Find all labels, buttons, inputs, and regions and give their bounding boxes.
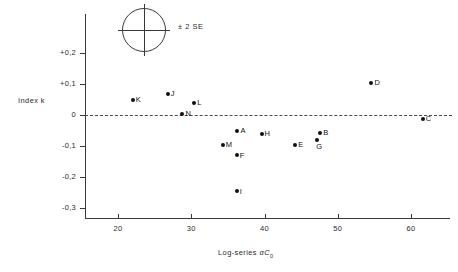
alpha-symbol: αC: [260, 248, 271, 257]
y-axis-line: [85, 14, 86, 219]
data-point-label: J: [171, 89, 175, 98]
x-tick-mark: [338, 214, 339, 219]
y-tick-label: +0,1: [40, 79, 76, 88]
y-tick-label: 0: [40, 110, 76, 119]
data-point-label: M: [226, 140, 232, 149]
data-point-label: E: [298, 140, 303, 149]
y-tick-label: -0,1: [40, 141, 76, 150]
x-tick-label: 60: [396, 224, 426, 233]
plot-area: +0,2+0,10-0,1-0,2-0,3 2030405060 KJNLMAF…: [0, 0, 458, 272]
data-point: [293, 143, 297, 147]
x-tick-label: 30: [176, 224, 206, 233]
y-tick-label: -0,2: [40, 172, 76, 181]
data-point-label: B: [323, 128, 328, 137]
x-tick-label: 40: [250, 224, 280, 233]
y-tick-mark: [80, 208, 85, 209]
x-axis-title: Log-series αC0: [218, 248, 273, 259]
data-point: [192, 101, 196, 105]
x-axis-title-text: Log-series: [218, 248, 260, 257]
y-tick-label: +0,2: [40, 48, 76, 57]
data-point-label: H: [265, 129, 271, 138]
x-tick-mark: [411, 214, 412, 219]
data-point-label: A: [240, 126, 245, 135]
y-tick-mark: [80, 84, 85, 85]
data-point: [318, 131, 322, 135]
y-tick-mark: [80, 177, 85, 178]
data-point: [421, 117, 425, 121]
data-point-label: G: [316, 142, 322, 151]
y-tick-label: -0,3: [40, 203, 76, 212]
data-point-label: I: [240, 187, 242, 196]
scatter-plot-figure: +0,2+0,10-0,1-0,2-0,3 2030405060 KJNLMAF…: [0, 0, 458, 272]
zero-reference-line: [85, 115, 452, 116]
data-point-label: C: [426, 114, 432, 123]
data-point-label: N: [185, 109, 191, 118]
data-point: [235, 153, 239, 157]
x-axis-line: [85, 218, 450, 219]
y-axis-title: Index k: [18, 96, 45, 105]
x-tick-mark: [191, 214, 192, 219]
x-tick-label: 50: [323, 224, 353, 233]
x-tick-mark: [265, 214, 266, 219]
error-legend-label: ± 2 SE: [178, 22, 203, 31]
data-point: [166, 92, 170, 96]
data-point-label: F: [240, 151, 245, 160]
error-crosshair-vertical-icon: [144, 4, 145, 56]
y-tick-mark: [80, 53, 85, 54]
data-point-label: L: [197, 98, 201, 107]
data-point: [235, 189, 239, 193]
subscript-zero: 0: [270, 253, 273, 259]
data-point: [260, 132, 264, 136]
x-tick-mark: [118, 214, 119, 219]
error-legend-symbol: [122, 8, 168, 54]
data-point-label: K: [136, 95, 141, 104]
data-point-label: D: [374, 78, 380, 87]
x-tick-label: 20: [103, 224, 133, 233]
data-point: [131, 98, 135, 102]
data-point: [369, 81, 373, 85]
y-tick-mark: [80, 146, 85, 147]
data-point: [235, 129, 239, 133]
y-tick-mark: [80, 115, 85, 116]
data-point: [221, 143, 225, 147]
